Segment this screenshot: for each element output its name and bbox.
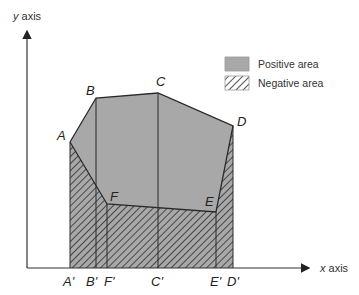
legend: Positive area Negative area <box>225 57 324 90</box>
point-label-e: E <box>205 194 214 209</box>
projection-label-d: D' <box>227 274 239 289</box>
legend-negative-swatch <box>225 76 249 90</box>
x-axis-label: x axis <box>319 262 349 274</box>
point-label-a: A <box>56 128 66 143</box>
point-label-c: C <box>156 74 166 89</box>
y-axis-label: y axis <box>12 10 42 22</box>
projection-label-b: B' <box>86 274 98 289</box>
projection-label-f: F' <box>104 274 115 289</box>
projection-label-a: A' <box>62 274 75 289</box>
point-label-b: B <box>86 83 95 98</box>
legend-negative-label: Negative area <box>258 77 324 89</box>
legend-positive-swatch <box>225 57 249 71</box>
area-diagram: y axis x axis A B C D E F A' B' F' C' E'… <box>0 0 359 295</box>
point-label-d: D <box>237 114 246 129</box>
point-label-f: F <box>110 189 119 204</box>
projection-label-c: C' <box>151 274 163 289</box>
projection-label-e: E' <box>210 274 222 289</box>
legend-positive-label: Positive area <box>258 58 319 70</box>
